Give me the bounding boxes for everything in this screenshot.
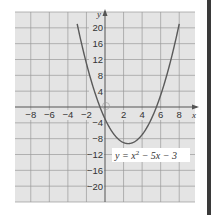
x-tick-label: 4	[139, 109, 144, 120]
x-tick-label: 6	[158, 109, 163, 120]
y-tick-label: 16	[92, 38, 103, 49]
x-tick-label: −4	[62, 109, 73, 120]
equation-text: y = x2 − 5x − 3	[114, 149, 177, 161]
page-edge-bar	[207, 0, 211, 215]
y-tick-label: 4	[98, 86, 103, 97]
y-axis-label: y	[96, 9, 101, 19]
x-axis-label: x	[191, 110, 196, 120]
y-tick-label: 20	[92, 22, 103, 33]
y-tick-label: −8	[92, 133, 103, 144]
x-tick-label: 8	[177, 109, 182, 120]
y-tick-label: −20	[87, 181, 103, 192]
x-tick-label: −6	[44, 109, 55, 120]
equation-label: y = x2 − 5x − 3	[112, 148, 190, 162]
y-tick-label: −16	[87, 165, 103, 176]
x-tick-label: −8	[25, 109, 36, 120]
y-tick-label: 12	[92, 54, 103, 65]
y-tick-label: 8	[98, 70, 103, 81]
y-tick-label: −4	[92, 117, 103, 128]
x-tick-label: 2	[121, 109, 126, 120]
y-tick-label: −12	[87, 149, 103, 160]
x-axis-arrow-icon	[192, 105, 199, 110]
quadratic-graph: −8−6−4−2246820161284−4−8−12−16−20xy y = …	[0, 0, 211, 215]
